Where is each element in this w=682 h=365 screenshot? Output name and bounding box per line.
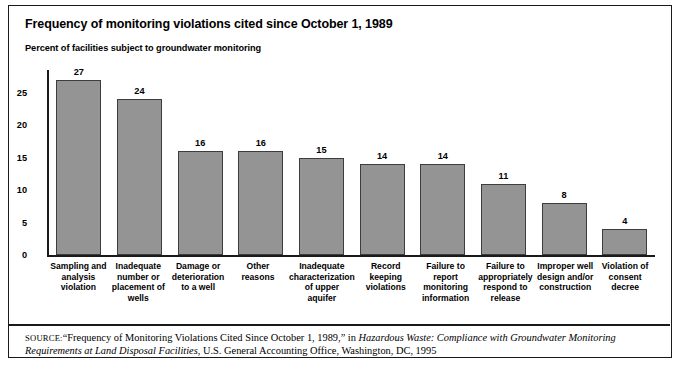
bar-value-label: 14 xyxy=(352,151,413,161)
bar[interactable] xyxy=(420,164,465,255)
x-axis-category-label: Failure toreportmonitoringinformation xyxy=(416,261,476,303)
bar-series: 272416161514141184 xyxy=(49,70,656,255)
bar[interactable] xyxy=(360,164,405,255)
chart-subtitle: Percent of facilities subject to groundw… xyxy=(25,43,261,53)
bar-value-label: 14 xyxy=(412,151,473,161)
bar[interactable] xyxy=(178,151,223,255)
bar-slot: 16 xyxy=(230,70,291,255)
y-axis-tick-label: 15 xyxy=(8,153,27,163)
bar[interactable] xyxy=(542,203,587,255)
bar-value-label: 11 xyxy=(473,171,534,181)
x-axis-category-label: Inadequatecharacterizationof upperaquife… xyxy=(288,261,356,303)
bar-slot: 15 xyxy=(291,70,352,255)
y-axis-tick-label: 25 xyxy=(8,88,27,98)
bar-slot: 4 xyxy=(594,70,655,255)
y-axis-tick-label: 0 xyxy=(8,250,27,260)
bar-slot: 14 xyxy=(412,70,473,255)
bar-value-label: 8 xyxy=(534,190,595,200)
x-axis-category-label: Inadequatenumber orplacement ofwells xyxy=(108,261,168,303)
source-text-1: “Frequency of Monitoring Violations Cite… xyxy=(63,332,359,343)
x-axis-category-label: Sampling andanalysisviolation xyxy=(49,261,109,303)
y-axis-tick-label: 10 xyxy=(8,185,27,195)
bar-slot: 14 xyxy=(352,70,413,255)
x-axis-category-label: Other reasons xyxy=(228,261,288,303)
source-text-2: , U.S. General Accounting Office, Washin… xyxy=(198,345,437,356)
x-axis-category-label: Damage ordeteriorationto a well xyxy=(168,261,228,303)
y-axis-tick-label: 5 xyxy=(8,218,27,228)
x-axis-category-label: Improper welldesign and/orconstruction xyxy=(535,261,595,303)
page-title: Frequency of monitoring violations cited… xyxy=(25,17,393,31)
x-axis-category-label: Failure toappropriatelyrespond torelease xyxy=(475,261,535,303)
bar-value-label: 16 xyxy=(170,138,231,148)
bar-slot: 24 xyxy=(109,70,170,255)
y-axis-tick-label: 20 xyxy=(8,120,27,130)
bar-slot: 11 xyxy=(473,70,534,255)
x-axis-category-labels: Sampling andanalysisviolationInadequaten… xyxy=(49,261,656,303)
bar[interactable] xyxy=(299,158,344,255)
bar[interactable] xyxy=(238,151,283,255)
bar-value-label: 16 xyxy=(230,138,291,148)
source-label: SOURCE: xyxy=(25,333,63,343)
bar-value-label: 27 xyxy=(49,67,110,77)
bar-value-label: 15 xyxy=(291,145,352,155)
bar[interactable] xyxy=(481,184,526,255)
source-divider xyxy=(9,324,670,326)
bar[interactable] xyxy=(117,99,162,255)
bar[interactable] xyxy=(56,80,101,255)
bar-value-label: 4 xyxy=(594,216,655,226)
figure-panel: Frequency of monitoring violations cited… xyxy=(8,5,672,358)
x-axis-line xyxy=(47,255,655,257)
bar-value-label: 24 xyxy=(109,86,170,96)
bar[interactable] xyxy=(602,229,647,255)
bar-slot: 8 xyxy=(534,70,595,255)
bar-slot: 16 xyxy=(170,70,231,255)
x-axis-category-label: Recordkeepingviolations xyxy=(356,261,416,303)
chart-plot-area: 272416161514141184 xyxy=(47,70,655,255)
x-axis-category-label: Violation ofconsentdecree xyxy=(595,261,655,303)
bar-slot: 27 xyxy=(49,70,110,255)
source-note: SOURCE:“Frequency of Monitoring Violatio… xyxy=(25,332,657,357)
